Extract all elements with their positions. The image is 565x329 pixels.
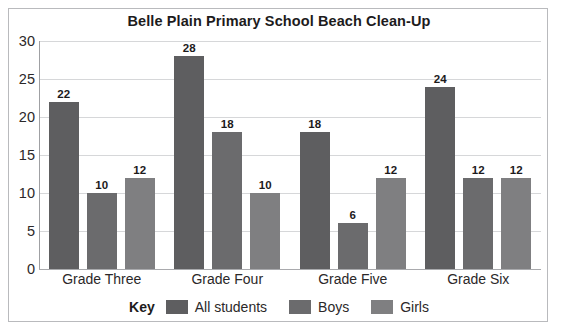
bar-value-label: 24 bbox=[434, 73, 447, 86]
legend-item[interactable]: Girls bbox=[371, 299, 429, 315]
category-label: Grade Three bbox=[62, 271, 141, 287]
bar[interactable]: 12 bbox=[501, 178, 531, 269]
bar-group: 241212 bbox=[39, 41, 541, 269]
legend-items: All studentsBoysGirls bbox=[166, 299, 429, 315]
legend-item[interactable]: Boys bbox=[289, 299, 349, 315]
y-tick-label-20: 20 bbox=[0, 109, 35, 125]
legend-label: Boys bbox=[318, 299, 349, 315]
y-tick-label-10: 10 bbox=[0, 185, 35, 201]
y-tick-label-30: 30 bbox=[0, 33, 35, 49]
chart-container: Belle Plain Primary School Beach Clean-U… bbox=[8, 8, 548, 322]
legend-label: Girls bbox=[400, 299, 429, 315]
category-label: Grade Five bbox=[318, 271, 387, 287]
y-tick-label-25: 25 bbox=[0, 71, 35, 87]
gridline-0 bbox=[39, 269, 541, 270]
legend-label: All students bbox=[195, 299, 267, 315]
legend-item[interactable]: All students bbox=[166, 299, 267, 315]
bar-value-label: 12 bbox=[510, 164, 523, 177]
y-tick-label-15: 15 bbox=[0, 147, 35, 163]
category-label: Grade Four bbox=[191, 271, 263, 287]
legend-swatch bbox=[371, 300, 393, 314]
y-tick-label-5: 5 bbox=[0, 223, 35, 239]
category-label: Grade Six bbox=[447, 271, 509, 287]
legend-swatch bbox=[166, 300, 188, 314]
bars-layer: 22101228181018612241212 bbox=[39, 41, 541, 269]
category-axis: Grade ThreeGrade FourGrade FiveGrade Six bbox=[39, 271, 541, 293]
legend-swatch bbox=[289, 300, 311, 314]
plot-area: 051015202530 22101228181018612241212 bbox=[39, 41, 541, 269]
chart-legend: Key All studentsBoysGirls bbox=[9, 293, 549, 321]
bar[interactable]: 12 bbox=[463, 178, 493, 269]
legend-title: Key bbox=[129, 299, 155, 315]
chart-title: Belle Plain Primary School Beach Clean-U… bbox=[9, 13, 549, 29]
bar[interactable]: 24 bbox=[425, 87, 455, 269]
bar-value-label: 12 bbox=[472, 164, 485, 177]
y-tick-label-0: 0 bbox=[0, 261, 35, 277]
